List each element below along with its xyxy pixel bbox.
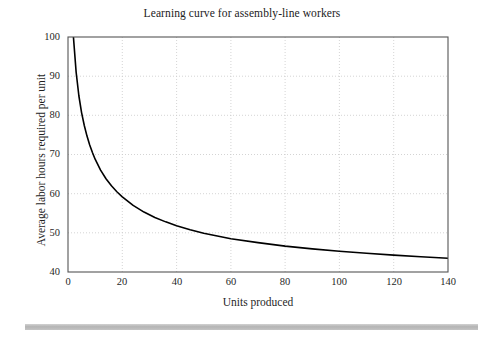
- x-tick-label-20: 20: [102, 276, 142, 287]
- x-tick-label-80: 80: [265, 276, 305, 287]
- x-tick-label-140: 140: [428, 276, 468, 287]
- footer-rule: [25, 324, 478, 330]
- y-axis-label: Average labor hours required per unit: [35, 40, 47, 280]
- x-tick-label-0: 0: [48, 276, 88, 287]
- figure-panel: Learning curve for assembly-line workers: [0, 0, 484, 337]
- x-tick-label-60: 60: [211, 276, 251, 287]
- x-axis-label: Units produced: [68, 296, 448, 308]
- x-tick-label-100: 100: [319, 276, 359, 287]
- x-tick-label-40: 40: [157, 276, 197, 287]
- x-tick-label-120: 120: [374, 276, 414, 287]
